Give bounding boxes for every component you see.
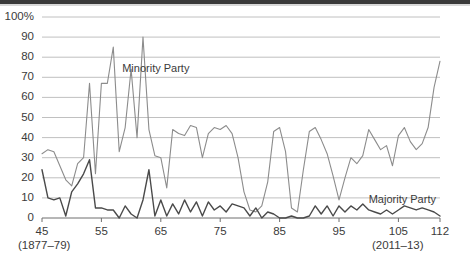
y-axis-label: 60 — [0, 91, 34, 103]
x-axis-label: 45 — [22, 226, 62, 238]
y-axis-label: 10 — [0, 192, 34, 204]
series-line-majority-party — [42, 160, 440, 218]
x-axis-label: 65 — [141, 226, 181, 238]
x-axis-start-note: (1877–79) — [18, 240, 70, 252]
y-axis-label: 90 — [0, 31, 34, 43]
y-axis-label: 70 — [0, 71, 34, 83]
x-axis-label: 85 — [260, 226, 300, 238]
chart-figure: 0102030405060708090100% 4555657585951051… — [0, 0, 470, 262]
series-line-minority-party — [42, 37, 440, 212]
x-axis-label: 95 — [319, 226, 359, 238]
y-axis-label: 50 — [0, 112, 34, 124]
y-axis-label: 40 — [0, 132, 34, 144]
line-chart-plot — [0, 0, 470, 262]
y-axis-label: 0 — [0, 212, 34, 224]
series-lines-group — [42, 37, 440, 218]
x-axis-end-note: (2011–13) — [372, 240, 424, 252]
x-axis-ticks-group — [42, 218, 440, 222]
x-axis-label: 55 — [81, 226, 121, 238]
x-axis-label: 112 — [420, 226, 460, 238]
y-axis-label: 80 — [0, 51, 34, 63]
x-axis-label: 105 — [378, 226, 418, 238]
series-annotation-majority-party: Majority Party — [369, 194, 436, 205]
gridlines-group — [42, 17, 440, 218]
y-axis-label: 100% — [0, 11, 34, 23]
y-axis-label: 30 — [0, 152, 34, 164]
y-axis-label: 20 — [0, 172, 34, 184]
series-annotation-minority-party: Minority Party — [122, 63, 189, 74]
x-axis-label: 75 — [200, 226, 240, 238]
